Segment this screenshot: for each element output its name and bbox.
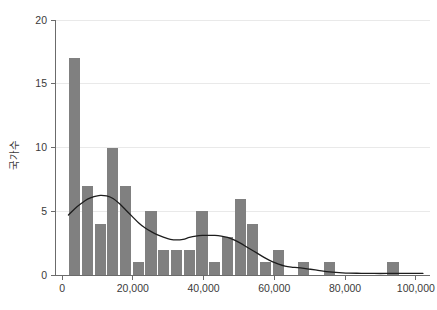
- chart-canvas: 05101520 020,00040,00060,00080,000100,00…: [0, 0, 437, 310]
- y-axis-tick-label: 10: [35, 141, 47, 153]
- histogram-bar: [324, 262, 335, 275]
- y-axis-tick-label: 15: [35, 77, 47, 89]
- histogram-bar: [260, 262, 271, 275]
- x-axis-tick-label: 0: [59, 282, 65, 294]
- histogram-bar: [158, 250, 169, 276]
- histogram-bar: [171, 250, 182, 276]
- histogram-bars: [69, 58, 399, 275]
- histogram-bar: [133, 262, 144, 275]
- x-axis: 020,00040,00060,00080,000100,000: [55, 275, 435, 294]
- y-axis-tick-label: 0: [41, 269, 47, 281]
- histogram-bar: [69, 58, 80, 275]
- histogram-chart: 05101520 020,00040,00060,00080,000100,00…: [0, 0, 437, 310]
- y-axis-tick-label: 5: [41, 205, 47, 217]
- histogram-bar: [235, 199, 246, 276]
- y-axis-tick-label: 20: [35, 14, 47, 26]
- y-axis-title-label: 국가수: [8, 140, 20, 170]
- histogram-bar: [196, 211, 207, 275]
- y-axis: 05101520: [35, 14, 55, 281]
- histogram-bar: [222, 237, 233, 275]
- histogram-bar: [107, 148, 118, 276]
- x-axis-tick-label: 80,000: [329, 282, 361, 294]
- x-axis-tick-label: 20,000: [117, 282, 149, 294]
- y-axis-title: 국가수: [8, 140, 20, 170]
- histogram-bar: [247, 224, 258, 275]
- histogram-bar: [95, 224, 106, 275]
- histogram-bar: [209, 262, 220, 275]
- histogram-bar: [184, 250, 195, 276]
- x-axis-tick-label: 100,000: [397, 282, 435, 294]
- histogram-bar: [120, 186, 131, 275]
- x-axis-tick-label: 40,000: [188, 282, 220, 294]
- histogram-bar: [145, 211, 156, 275]
- x-axis-tick-label: 60,000: [258, 282, 290, 294]
